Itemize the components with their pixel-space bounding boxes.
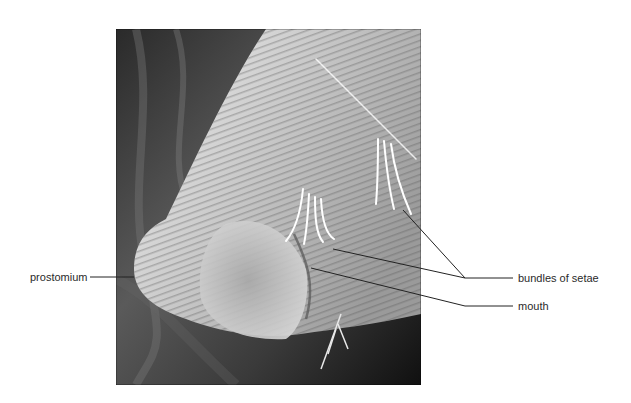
sem-micrograph <box>116 29 421 385</box>
label-bundles-of-setae: bundles of setae <box>518 272 599 284</box>
worm-image <box>116 29 421 385</box>
label-prostomium: prostomium <box>30 271 87 283</box>
label-mouth: mouth <box>518 300 549 312</box>
